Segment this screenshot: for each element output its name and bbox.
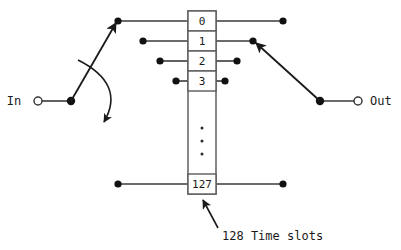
slot-right-contact-dot — [249, 37, 256, 44]
time-slot-label: 0 — [199, 15, 206, 28]
annotation-leader-arrow — [203, 200, 218, 228]
output-selector-arm — [256, 43, 320, 101]
slot-right-contact-dot — [221, 77, 228, 84]
slot-left-contact-dot — [114, 180, 121, 187]
time-slot-column: 0 1 2 3 127 — [188, 11, 216, 194]
slot-left-contact-dot — [139, 37, 146, 44]
time-slot-label: 127 — [192, 178, 212, 191]
input-port-group: In — [7, 94, 75, 108]
output-port-label: Out — [370, 94, 392, 108]
annotation-label: 128 Time slots — [222, 229, 323, 243]
time-slot-label: 3 — [199, 75, 206, 88]
sweep-direction-arc — [78, 60, 111, 122]
input-terminal-icon — [34, 97, 42, 105]
output-port-group: Out — [316, 94, 392, 108]
slot-left-contact-dot — [156, 57, 163, 64]
time-slot-label: 2 — [199, 55, 206, 68]
input-port-label: In — [7, 94, 21, 108]
output-terminal-icon — [354, 97, 362, 105]
slot-right-contact-dot — [233, 57, 240, 64]
slot-right-contact-dot — [279, 17, 286, 24]
tdm-switch-diagram: 0 1 2 3 127 In Out — [0, 0, 401, 250]
slot-left-contact-dot — [172, 77, 179, 84]
slot-right-contact-dot — [279, 180, 286, 187]
time-slot-label: 1 — [199, 35, 206, 48]
vertical-ellipsis-icon — [201, 127, 204, 156]
time-slots-annotation: 128 Time slots — [203, 200, 323, 243]
diagram-canvas: 0 1 2 3 127 In Out — [0, 0, 401, 250]
